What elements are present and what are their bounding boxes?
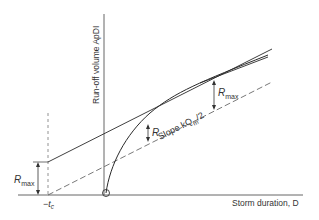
x-axis-label: Storm duration, D — [232, 198, 299, 208]
rmax-upper-label: Rmax — [218, 87, 239, 100]
tangent-line-2 — [200, 57, 268, 83]
y-axis-label: Run-off volume ApDI — [91, 26, 101, 104]
slope-label: Slope kQm/2 — [156, 110, 206, 143]
diagram-canvas: Run-off volume ApDI Storm duration, D Rm… — [0, 0, 319, 220]
runoff-diagram: Run-off volume ApDI Storm duration, D Rm… — [0, 0, 319, 220]
neg-tc-label: −tc — [43, 199, 55, 210]
rmax-left-label: Rmax — [14, 174, 35, 187]
